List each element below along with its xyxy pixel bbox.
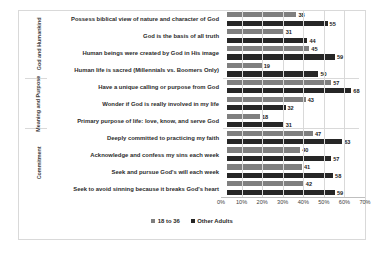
bar-slot: 59: [227, 53, 355, 61]
plot-area: God and HumankindPossess biblical view o…: [19, 11, 365, 197]
chart-row: Have a unique calling or purpose from Go…: [47, 79, 359, 96]
bar-value-label: 43: [308, 97, 314, 103]
bar-value-label: 59: [337, 190, 343, 196]
bar-slot: 38: [227, 11, 355, 19]
x-tick-label: 30%: [277, 199, 288, 205]
bar-other-adults[interactable]: [227, 122, 284, 127]
group-rows: Possess biblical view of nature and char…: [47, 11, 359, 78]
bar-slot: 50: [227, 70, 355, 78]
bar-slot: 59: [227, 189, 355, 197]
bar-pair: 4763: [227, 129, 355, 146]
bar-value-label: 32: [288, 105, 294, 111]
bar-pair: 1831: [227, 112, 355, 129]
bar-pair: 4559: [227, 45, 355, 62]
group-label: Meaning and Purpose: [31, 79, 47, 129]
chart-row: Wonder if God is really involved in my l…: [47, 96, 359, 113]
bar-pair: 3144: [227, 28, 355, 45]
bar-slot: 41: [227, 163, 355, 171]
bar-other-adults[interactable]: [227, 38, 307, 43]
group-label-text: Commitment: [36, 147, 42, 180]
category-label: Primary purpose of life: love, know, and…: [47, 112, 223, 129]
bar-value-label: 18: [262, 114, 268, 120]
bar-value-label: 42: [306, 181, 312, 187]
bar-value-label: 68: [353, 88, 359, 94]
bar-other-adults[interactable]: [227, 21, 328, 26]
bar-other-adults[interactable]: [227, 88, 351, 93]
bar-18-to-36[interactable]: [227, 80, 331, 85]
bar-value-label: 47: [315, 131, 321, 137]
category-label: Seek and pursue God's will each week: [47, 163, 223, 180]
bar-18-to-36[interactable]: [227, 164, 302, 169]
x-tick-label: 20%: [257, 199, 268, 205]
x-tick-label: 50%: [318, 199, 329, 205]
chart-row: Acknowledge and confess my sins each wee…: [47, 146, 359, 163]
bar-18-to-36[interactable]: [227, 97, 306, 102]
bar-slot: 18: [227, 112, 355, 120]
bar-value-label: 19: [264, 63, 270, 69]
legend-label: 18 to 36: [158, 218, 180, 224]
bar-value-label: 40: [302, 147, 308, 153]
bar-other-adults[interactable]: [227, 54, 335, 59]
bar-value-label: 63: [344, 139, 350, 145]
bar-value-label: 41: [304, 164, 310, 170]
bar-18-to-36[interactable]: [227, 46, 309, 51]
bar-18-to-36[interactable]: [227, 114, 260, 119]
group-label-text: God and Humankind: [36, 18, 42, 71]
bar-slot: 32: [227, 104, 355, 112]
bar-value-label: 57: [333, 80, 339, 86]
category-label: Wonder if God is really involved in my l…: [47, 96, 223, 113]
bar-18-to-36[interactable]: [227, 147, 300, 152]
bar-other-adults[interactable]: [227, 190, 335, 195]
bar-other-adults[interactable]: [227, 173, 333, 178]
legend-label: Other Adults: [197, 218, 232, 224]
legend-item-other-adults[interactable]: Other Adults: [191, 218, 233, 224]
bar-slot: 44: [227, 36, 355, 44]
chart-row: Human beings were created by God in His …: [47, 45, 359, 62]
bar-slot: 40: [227, 146, 355, 154]
bar-pair: 4158: [227, 163, 355, 180]
group-rows: Deeply committed to practicing my faith4…: [47, 129, 359, 197]
bar-value-label: 59: [337, 54, 343, 60]
bar-other-adults[interactable]: [227, 156, 331, 161]
bar-value-label: 31: [286, 29, 292, 35]
x-tick-label: 60%: [339, 199, 350, 205]
group-label: Commitment: [31, 129, 47, 197]
bar-slot: 63: [227, 138, 355, 146]
bar-value-label: 55: [330, 21, 336, 27]
bar-value-label: 58: [335, 173, 341, 179]
bar-other-adults[interactable]: [227, 71, 318, 76]
bar-slot: 31: [227, 28, 355, 36]
bar-slot: 47: [227, 129, 355, 137]
chart-row: Seek and pursue God's will each week4158: [47, 163, 359, 180]
bar-slot: 19: [227, 62, 355, 70]
category-label: Deeply committed to practicing my faith: [47, 129, 223, 146]
chart-row: Deeply committed to practicing my faith4…: [47, 129, 359, 146]
bar-slot: 31: [227, 121, 355, 129]
category-group: Meaning and PurposeHave a unique calling…: [25, 79, 359, 130]
bar-pair: 3855: [227, 11, 355, 28]
bar-slot: 45: [227, 45, 355, 53]
bar-slot: 68: [227, 87, 355, 95]
legend-item-18-to-36[interactable]: 18 to 36: [151, 218, 179, 224]
bar-18-to-36[interactable]: [227, 12, 296, 17]
category-label: Seek to avoid sinning because it breaks …: [47, 180, 223, 197]
bar-18-to-36[interactable]: [227, 29, 284, 34]
bar-18-to-36[interactable]: [227, 63, 262, 68]
bar-pair: 4259: [227, 180, 355, 197]
bar-pair: 5768: [227, 79, 355, 96]
x-tick-label: 40%: [298, 199, 309, 205]
group-rows: Have a unique calling or purpose from Go…: [47, 79, 359, 129]
bar-other-adults[interactable]: [227, 139, 342, 144]
category-group: God and HumankindPossess biblical view o…: [25, 11, 359, 79]
category-label: God is the basis of all truth: [47, 28, 223, 45]
bar-18-to-36[interactable]: [227, 181, 304, 186]
bar-slot: 43: [227, 96, 355, 104]
bar-slot: 57: [227, 79, 355, 87]
category-label: Acknowledge and confess my sins each wee…: [47, 146, 223, 163]
chart-row: Seek to avoid sinning because it breaks …: [47, 180, 359, 197]
bar-value-label: 38: [298, 12, 304, 18]
chart-row: God is the basis of all truth3144: [47, 28, 359, 45]
bar-18-to-36[interactable]: [227, 131, 313, 136]
bar-other-adults[interactable]: [227, 105, 286, 110]
x-tick-label: 10%: [236, 199, 247, 205]
